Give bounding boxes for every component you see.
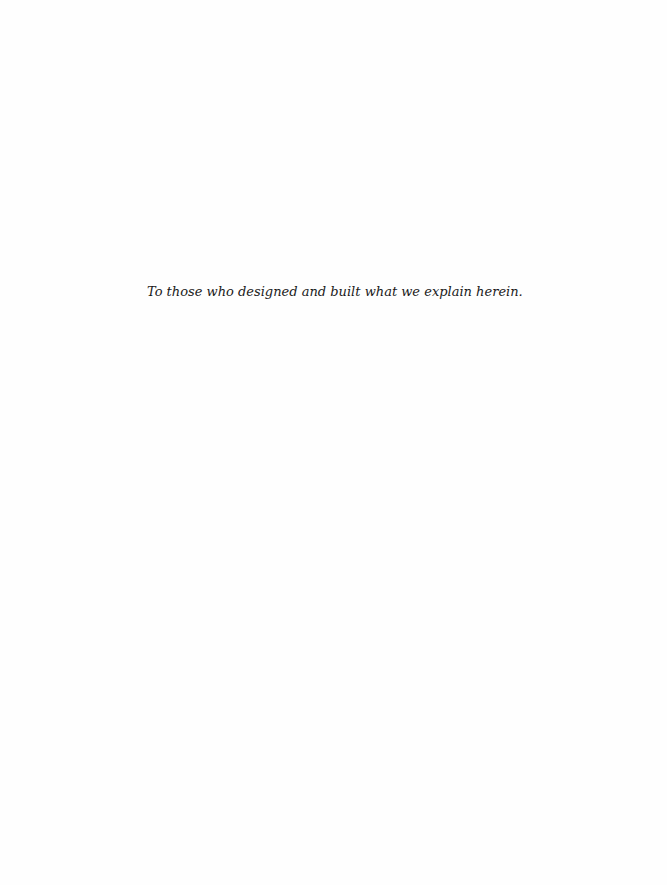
dedication-text: To those who designed and built what we … <box>147 283 523 301</box>
book-page: To those who designed and built what we … <box>0 0 667 885</box>
